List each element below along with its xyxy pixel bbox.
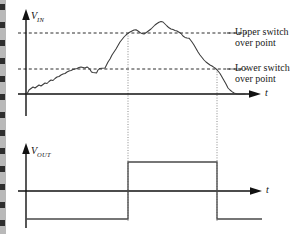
spine-mark [0, 58, 5, 64]
top-y-axis-arrowhead [22, 9, 30, 20]
vin-axis-label: VIN [31, 10, 44, 23]
figure-container: VIN VOUT t t Upper switch over point Low… [0, 0, 294, 234]
spine-mark [0, 76, 5, 82]
spine-mark [0, 184, 5, 190]
vout-label-subscript: OUT [37, 151, 51, 158]
spine-mark [0, 148, 5, 154]
vin-label-subscript: IN [37, 16, 44, 23]
bottom-t-axis-arrowhead [250, 187, 262, 195]
bottom-t-axis-label: t [266, 184, 269, 195]
top-t-axis-label: t [265, 87, 268, 98]
top-t-axis-arrowhead [249, 90, 261, 98]
spine-mark [0, 40, 5, 46]
spine-mark [0, 130, 5, 136]
spine-mark [0, 220, 5, 226]
spine-mark [0, 112, 5, 118]
spine-mark [0, 166, 5, 172]
bottom-y-axis-arrowhead [22, 143, 30, 154]
input-waveform-trace [27, 22, 245, 95]
spine-mark [0, 94, 5, 100]
vout-axis-label: VOUT [31, 145, 51, 158]
spine-mark [0, 4, 5, 10]
spine-mark [0, 22, 5, 28]
spine-mark [0, 202, 5, 208]
lower-switch-over-point-label: Lower switch over point [235, 62, 290, 84]
upper-switch-over-point-label: Upper switch over point [235, 26, 289, 48]
